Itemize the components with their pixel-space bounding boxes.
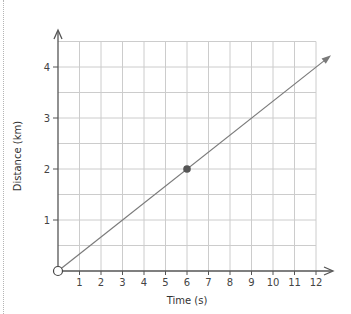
x-tick-label: 5 <box>162 277 168 288</box>
x-tick-label: 9 <box>248 277 254 288</box>
x-tick-label: 12 <box>310 277 323 288</box>
origin-open-circle <box>54 267 63 276</box>
x-tick-label: 10 <box>267 277 280 288</box>
x-tick-label: 11 <box>288 277 301 288</box>
x-tick-label: 8 <box>227 277 233 288</box>
distance-time-chart: 1234567891011121234 Time (s) Distance (k… <box>0 0 351 314</box>
x-tick-label: 6 <box>184 277 190 288</box>
y-axis-title: Distance (km) <box>12 121 23 191</box>
x-tick-label: 7 <box>205 277 211 288</box>
line-arrowhead-icon <box>322 55 331 64</box>
x-tick-label: 3 <box>119 277 125 288</box>
x-axis-title: Time (s) <box>166 295 208 306</box>
y-tick-label: 4 <box>44 62 50 73</box>
y-tick-label: 2 <box>44 164 50 175</box>
grid-lines <box>58 42 316 272</box>
y-tick-label: 1 <box>44 215 50 226</box>
data-point-dot <box>183 165 191 173</box>
y-tick-label: 3 <box>44 113 50 124</box>
data-series <box>54 55 332 275</box>
x-tick-label: 2 <box>98 277 104 288</box>
x-tick-label: 1 <box>76 277 82 288</box>
x-tick-label: 4 <box>141 277 147 288</box>
